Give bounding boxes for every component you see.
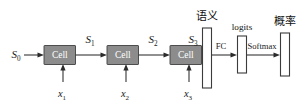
probability-vector-box[interactable]	[281, 33, 290, 76]
rnn-cell-3[interactable]: Cell	[170, 46, 202, 65]
input-label-x3: x3	[183, 88, 193, 102]
state-label-s0: S0	[11, 48, 21, 63]
rnn-cell-2[interactable]: Cell	[107, 46, 139, 65]
logits-vector-label: logits	[232, 22, 253, 32]
probability-vector-label: 概率	[274, 14, 296, 28]
rnn-cell-2-label: Cell	[115, 50, 131, 60]
semantic-vector-box[interactable]	[203, 28, 212, 88]
logits-vector-box[interactable]	[238, 36, 247, 73]
semantic-vector-label: 语义	[196, 10, 218, 23]
fc-op-label: FC	[216, 41, 227, 51]
softmax-op-label: Softmax	[247, 41, 277, 51]
state-label-s2: S2	[148, 33, 158, 48]
arrow-cell2-to-cell3	[138, 52, 170, 57]
diagram-canvas: Cell Cell Cell S0 S1 S2	[0, 0, 305, 104]
rnn-cell-3-label: Cell	[178, 50, 194, 60]
arrow-x2-to-cell2	[123, 64, 128, 82]
arrow-semantic-to-logits	[211, 52, 237, 57]
rnn-cell-1[interactable]: Cell	[44, 46, 76, 65]
rnn-architecture-diagram: Cell Cell Cell S0 S1 S2	[0, 0, 305, 104]
input-label-x1: x1	[57, 88, 67, 102]
arrow-cell1-to-cell2	[75, 52, 107, 57]
arrow-logits-to-probability	[246, 52, 280, 57]
arrow-x1-to-cell1	[60, 64, 65, 82]
rnn-cell-1-label: Cell	[52, 50, 68, 60]
state-label-s1: S1	[85, 33, 95, 48]
arrow-s0-to-cell1	[24, 52, 44, 57]
arrow-x3-to-cell3	[186, 64, 191, 82]
input-label-x2: x2	[120, 88, 130, 102]
